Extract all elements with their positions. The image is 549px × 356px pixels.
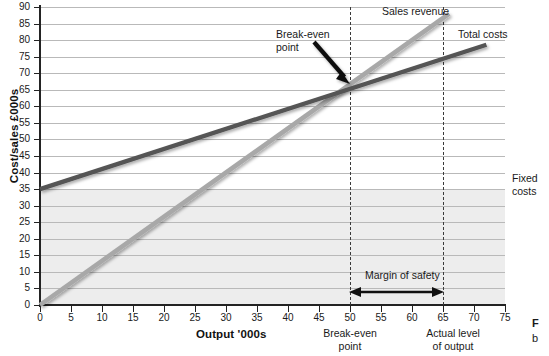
axis-note-actual-output-line2: of output [408, 340, 498, 353]
break-even-callout-line2: point [276, 41, 330, 54]
fixed-costs-label-line1: Fixed [512, 172, 538, 185]
page-edge-cut-text: F b [532, 316, 548, 352]
total-costs-line [40, 45, 486, 189]
margin-of-safety-arrow [349, 287, 444, 297]
sales-revenue-label: Sales revenue [382, 5, 449, 18]
fixed-costs-label-line2: costs [512, 185, 538, 198]
breakeven-chart: 051015202530354045505560657075808590 051… [0, 0, 549, 356]
axis-note-break-even: Break-even point [305, 327, 395, 353]
break-even-callout: Break-even point [276, 28, 330, 54]
axis-note-actual-output: Actual level of output [408, 327, 498, 353]
axis-note-break-even-line2: point [305, 340, 395, 353]
page-edge-cut-line1: F [532, 316, 548, 331]
x-axis-title: Output '000s [196, 328, 266, 340]
fixed-costs-label: Fixed costs [512, 172, 538, 198]
sales-revenue-line [40, 14, 449, 305]
page-edge-cut-line2: b [532, 331, 548, 346]
total-costs-label: Total costs [458, 28, 508, 41]
data-lines [0, 0, 549, 356]
axis-note-break-even-line1: Break-even [305, 327, 395, 340]
y-axis-title: Cost/sales £000s [8, 76, 20, 196]
break-even-callout-line1: Break-even [276, 28, 330, 41]
margin-of-safety-label: Margin of safety [365, 269, 440, 282]
axis-note-actual-output-line1: Actual level [408, 327, 498, 340]
